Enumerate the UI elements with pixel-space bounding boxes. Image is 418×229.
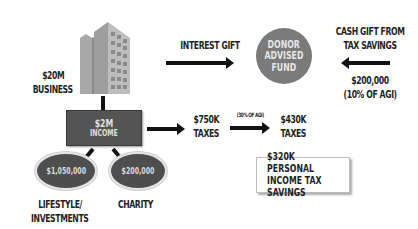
cash-gift-label-2: TAX SAVINGS: [320, 40, 418, 52]
taxes-after-amount: $430K: [270, 114, 316, 126]
charity-ellipse: $200,000: [109, 152, 167, 190]
income-box: $2M INCOME: [66, 110, 142, 146]
agi-note: (30% OF AGI): [226, 112, 274, 119]
charity-label: CHARITY: [105, 199, 165, 211]
business-label: BUSINESS: [18, 84, 88, 96]
taxes-before-label: TAXES: [183, 128, 229, 140]
cash-gift-amount: $200,000: [320, 75, 418, 87]
business-amount: $20M: [30, 70, 76, 82]
donor-advised-fund-circle: DONORADVISEDFUND: [256, 28, 312, 84]
lifestyle-label-1: LIFESTYLE/: [20, 199, 100, 211]
lifestyle-ellipse: $1,050,000: [35, 152, 97, 190]
business-to-income-line: [101, 96, 105, 110]
tax-savings-box: $320K PERSONAL INCOME TAX SAVINGS: [256, 157, 350, 193]
tax-reduction-arrow: [230, 126, 264, 130]
taxes-after-label: TAXES: [270, 128, 316, 140]
cash-gift-note: (10% OF AGI): [320, 89, 418, 101]
interest-gift-arrow: [166, 61, 228, 65]
cash-gift-label-1: CASH GIFT FROM: [320, 26, 418, 38]
cash-gift-arrow: [347, 61, 390, 65]
interest-gift-label: INTEREST GIFT: [160, 40, 260, 52]
building-icon: [80, 22, 135, 94]
taxes-before-amount: $750K: [183, 114, 229, 126]
lifestyle-label-2: INVESTMENTS: [20, 213, 100, 225]
income-to-taxes-arrow: [147, 127, 179, 131]
